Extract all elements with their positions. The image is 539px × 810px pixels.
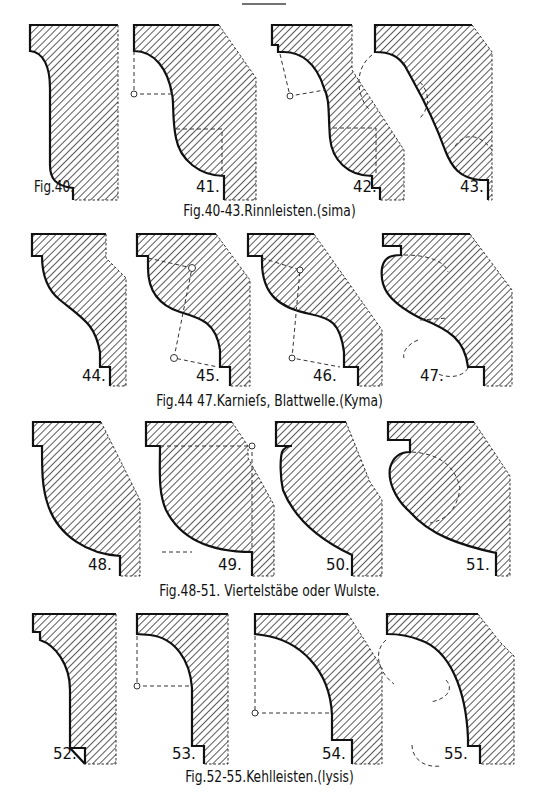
- figure-52: 52.: [33, 614, 116, 764]
- figure-label: 46.: [313, 367, 337, 385]
- figure-41: 41.: [131, 25, 256, 200]
- figure-label: 49.: [218, 556, 242, 574]
- figure-label: 47.: [420, 367, 444, 385]
- caption-fig-40-43: Fig.40-43.Rinnleisten.(sima): [49, 202, 491, 220]
- caption-fig-52-55: Fig.52-55.Kehlleisten.(lysis): [49, 768, 491, 786]
- figure-44: 44.: [32, 234, 126, 386]
- figure-label: 41.: [196, 178, 220, 196]
- figure-label: 55.: [444, 745, 468, 763]
- figure-53: 53.: [134, 614, 228, 764]
- figure-45: 45.: [137, 234, 250, 386]
- figure-label: 53.: [172, 745, 196, 763]
- figure-49: 49.: [146, 422, 274, 576]
- figure-label: 50.: [326, 556, 350, 574]
- figure-label: 45.: [196, 367, 220, 385]
- figure-55: 55.: [378, 614, 514, 766]
- figure-50: 50.: [276, 422, 382, 576]
- figure-label: 54.: [322, 745, 346, 763]
- figure-label: 52.: [53, 745, 77, 763]
- figure-label: 42.: [353, 178, 377, 196]
- figure-label: 43.: [460, 178, 484, 196]
- caption-fig-48-51: Fig.48-51. Viertelstäbe oder Wulste.: [49, 582, 491, 600]
- figure-47: 47.: [382, 234, 512, 386]
- figure-label: 44.: [82, 367, 106, 385]
- figure-54: 54.: [252, 614, 382, 764]
- caption-fig-44-47: Fig.44 47.Karnieſs, Blattwelle.(Kyma): [49, 392, 491, 410]
- figure-51: 51.: [388, 422, 510, 576]
- figure-46: 46.: [248, 234, 382, 386]
- figure-label: 48.: [88, 556, 112, 574]
- figure-label: Fig.40.: [34, 178, 74, 196]
- figure-label: 51.: [466, 556, 490, 574]
- figure-40: Fig.40.: [30, 25, 118, 200]
- figure-48: 48.: [33, 422, 140, 576]
